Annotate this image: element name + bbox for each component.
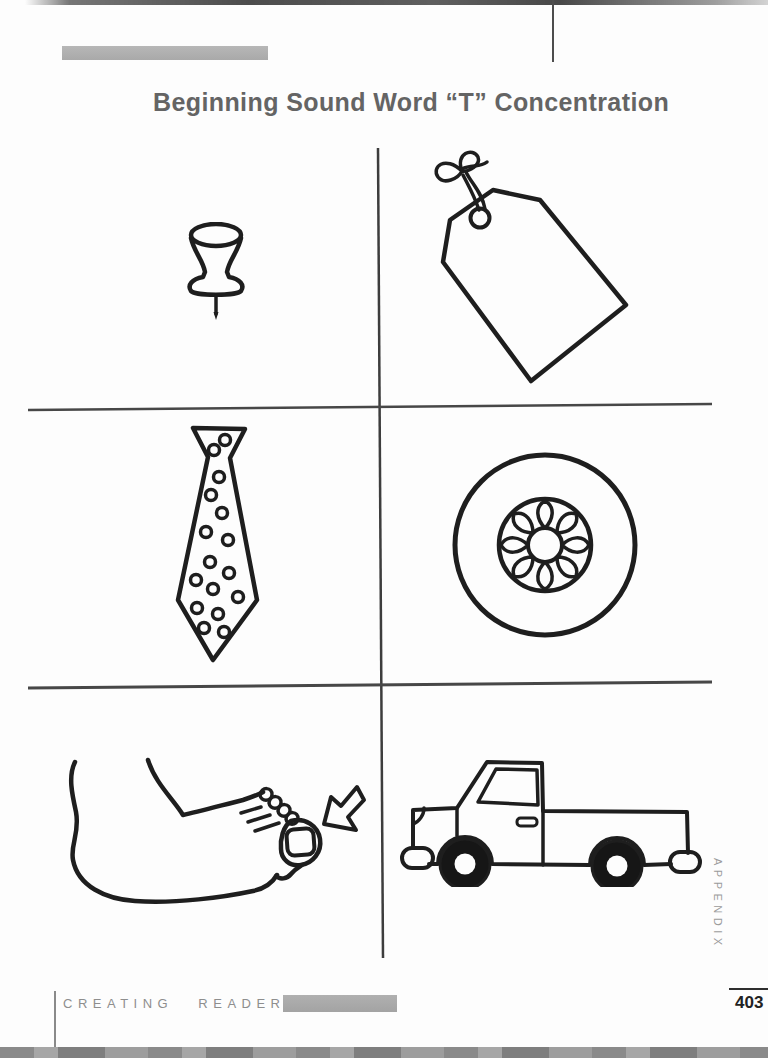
card-tag	[425, 145, 640, 390]
footer-gray-bar	[283, 995, 397, 1012]
card-thumbtack	[186, 222, 246, 322]
tire-illustration	[450, 450, 640, 640]
footer-imprint: CREATING READERS	[63, 996, 300, 1011]
toe-illustration	[55, 750, 385, 915]
card-tie	[170, 420, 270, 670]
card-tire	[450, 450, 640, 640]
scanned-worksheet-page: { "page": { "title": "Beginning Sound Wo…	[0, 0, 768, 1058]
arrow-icon	[324, 787, 364, 830]
grid-line-horizontal-2	[28, 682, 712, 688]
truck-illustration	[395, 752, 705, 887]
thumbtack-illustration	[186, 222, 246, 322]
card-toe	[55, 750, 385, 915]
folio-rule	[729, 988, 768, 990]
footer-tick-line	[54, 991, 56, 1047]
card-truck	[395, 752, 705, 887]
appendix-label: APPENDIX	[712, 858, 724, 984]
tie-illustration	[170, 420, 270, 670]
page-number: 403	[735, 993, 763, 1013]
grid-line-horizontal-1	[28, 404, 712, 410]
tag-illustration	[425, 145, 640, 390]
